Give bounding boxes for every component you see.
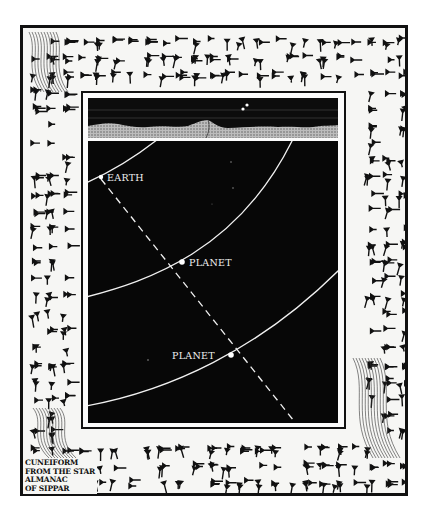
cuneiform-glyph <box>32 193 44 198</box>
cuneiform-glyph <box>386 91 396 95</box>
cuneiform-glyph <box>45 276 49 285</box>
cuneiform-glyph <box>45 293 58 307</box>
star-icon <box>241 107 244 110</box>
cuneiform-glyph <box>383 196 387 206</box>
cuneiform-glyph <box>32 276 42 280</box>
cuneiform-glyph <box>45 209 53 219</box>
cuneiform-glyph <box>334 40 350 48</box>
cuneiform-glyph <box>397 36 408 45</box>
cuneiform-glyph <box>79 55 86 59</box>
cuneiform-glyph <box>399 276 403 286</box>
cuneiform-glyph <box>193 462 205 476</box>
cuneiform-glyph <box>65 39 78 45</box>
cuneiform-glyph <box>32 173 46 188</box>
cuneiform-glyph <box>370 396 374 408</box>
earth-marker <box>99 175 103 179</box>
cuneiform-glyph <box>404 226 408 230</box>
cuneiform-glyph <box>364 174 380 186</box>
cuneiform-glyph <box>32 57 39 61</box>
cuneiform-glyph <box>397 192 408 209</box>
cuneiform-glyph <box>401 240 408 249</box>
cuneiform-glyph <box>369 106 377 112</box>
cuneiform-glyph <box>161 481 166 493</box>
cuneiform-glyph <box>353 466 357 475</box>
cuneiform-glyph <box>382 258 397 272</box>
cuneiform-glyph <box>333 481 342 493</box>
star-icon <box>232 187 234 189</box>
outer-planet-label: PLANET <box>172 350 215 361</box>
cuneiform-glyph <box>351 58 362 62</box>
cuneiform-glyph <box>47 396 59 409</box>
cuneiform-glyph <box>33 104 47 113</box>
cuneiform-glyph <box>401 177 405 187</box>
cuneiform-glyph <box>129 478 141 488</box>
cuneiform-glyph <box>158 464 170 479</box>
cuneiform-glyph <box>403 308 408 312</box>
cuneiform-glyph <box>397 381 408 394</box>
cuneiform-glyph <box>365 480 374 495</box>
cuneiform-glyph <box>65 179 69 186</box>
cuneiform-glyph <box>225 39 229 50</box>
cuneiform-glyph <box>369 206 380 210</box>
cuneiform-glyph <box>61 326 76 340</box>
cuneiform-glyph <box>401 91 408 96</box>
cuneiform-glyph <box>305 445 312 449</box>
cuneiform-glyph <box>304 461 315 475</box>
cuneiform-glyph <box>94 73 106 85</box>
cuneiform-glyph <box>338 445 348 461</box>
cuneiform-glyph <box>61 314 65 321</box>
cuneiform-glyph <box>399 127 408 138</box>
cuneiform-glyph <box>81 73 92 78</box>
cuneiform-glyph <box>368 38 376 46</box>
cuneiform-glyph <box>205 54 220 65</box>
cuneiform-glyph <box>48 141 55 145</box>
cuneiform-glyph <box>384 461 395 466</box>
cuneiform-glyph <box>111 70 121 82</box>
cuneiform-glyph <box>254 39 270 49</box>
mountain-range <box>88 120 338 138</box>
cuneiform-glyph <box>237 478 253 496</box>
cuneiform-glyph <box>66 276 75 280</box>
cuneiform-glyph <box>31 446 39 453</box>
cuneiform-glyph <box>31 224 40 239</box>
cuneiform-glyph <box>49 122 55 126</box>
star-icon <box>287 310 288 311</box>
cuneiform-glyph <box>365 294 381 308</box>
cuneiform-glyph <box>176 70 190 80</box>
star-icon <box>211 203 212 204</box>
cuneiform-glyph <box>385 298 390 310</box>
star-icon <box>245 103 248 106</box>
cuneiform-glyph <box>48 327 58 333</box>
star-icon <box>147 359 149 361</box>
cuneiform-glyph <box>337 76 341 83</box>
cuneiform-glyph <box>80 449 92 454</box>
cuneiform-glyph <box>402 331 407 341</box>
cuneiform-glyph <box>34 210 45 216</box>
cuneiform-glyph <box>258 74 269 88</box>
cuneiform-glyph <box>237 38 245 51</box>
cuneiform-glyph <box>145 53 159 66</box>
inner-planet-orbit <box>88 141 293 297</box>
cuneiform-glyph <box>382 345 396 354</box>
cuneiform-glyph <box>45 310 49 319</box>
cuneiform-glyph <box>208 446 221 459</box>
cuneiform-glyph <box>301 72 307 86</box>
horizon-panel <box>88 98 338 138</box>
cuneiform-glyph <box>146 37 158 44</box>
cuneiform-glyph <box>63 54 73 63</box>
cuneiform-glyph <box>401 464 408 469</box>
cuneiform-glyph <box>61 393 75 406</box>
cuneiform-glyph <box>320 482 331 496</box>
cuneiform-glyph <box>31 361 42 374</box>
cuneiform-glyph <box>34 246 43 250</box>
cuneiform-glyph <box>225 481 236 496</box>
cuneiform-glyph <box>369 140 381 155</box>
cuneiform-glyph <box>49 364 57 376</box>
cuneiform-glyph <box>50 383 54 391</box>
inner-planet-marker <box>179 259 185 265</box>
cuneiform-glyph <box>384 242 398 256</box>
cuneiform-glyph <box>303 39 307 48</box>
cuneiform-glyph <box>176 481 183 489</box>
cuneiform-glyph <box>383 40 394 49</box>
cuneiform-glyph <box>85 40 95 44</box>
